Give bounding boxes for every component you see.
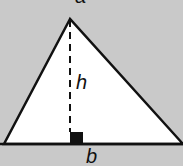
right-angle-marker	[70, 132, 83, 144]
triangle-diagram	[0, 0, 183, 166]
height-label: h	[76, 72, 87, 92]
top-partial-label: a	[75, 0, 86, 6]
triangle	[4, 19, 183, 144]
base-label: b	[86, 146, 97, 166]
